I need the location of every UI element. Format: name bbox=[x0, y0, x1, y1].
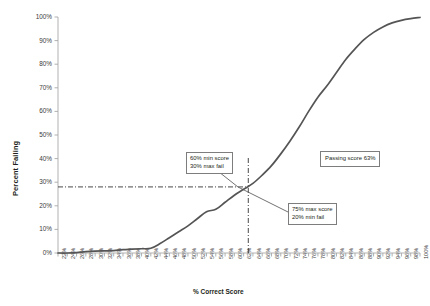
x-axis-ticks bbox=[58, 253, 420, 257]
failing-rate-chart: Percent Failing % Correct Score 0%10%20%… bbox=[0, 0, 430, 306]
annotation-min-score-line1: 60% min score bbox=[190, 155, 229, 163]
annotation-min-score-line2: 30% max fail bbox=[190, 163, 229, 171]
annotation-max-score-line1: 75% max score bbox=[292, 206, 333, 214]
leader-line-min-score bbox=[219, 172, 238, 187]
axes bbox=[55, 17, 421, 257]
annotation-max-score: 75% max score 20% min fail bbox=[288, 203, 337, 225]
annotation-min-score: 60% min score 30% max fail bbox=[186, 152, 233, 174]
annotation-passing-score: Passing score 63% bbox=[320, 151, 380, 167]
annotation-leader-lines bbox=[219, 172, 288, 212]
annotation-passing-score-text: Passing score 63% bbox=[325, 155, 375, 163]
percent-failing-line bbox=[58, 17, 420, 253]
annotation-max-score-line2: 20% min fail bbox=[292, 214, 333, 222]
y-axis-ticks bbox=[55, 17, 59, 253]
leader-line-max-score bbox=[238, 187, 288, 212]
